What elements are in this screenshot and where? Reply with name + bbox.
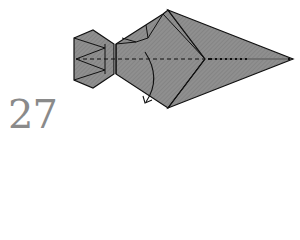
step-number: 27	[8, 94, 57, 134]
